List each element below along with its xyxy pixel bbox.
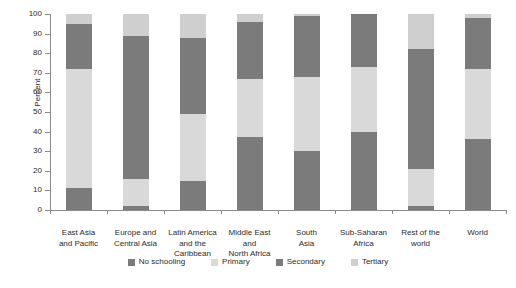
legend-item-secondary[interactable]: Secondary — [276, 258, 325, 266]
x-tick-mark — [278, 210, 279, 214]
legend-swatch-icon — [276, 259, 283, 266]
bar-segment-tertiary[interactable] — [294, 14, 320, 16]
y-tick-label: 60 — [18, 88, 42, 96]
x-label-line: World — [446, 228, 509, 239]
x-label-line: East Asia — [47, 228, 110, 239]
bar-segment-no-schooling[interactable] — [66, 188, 92, 210]
y-tick-mark — [45, 112, 50, 113]
chart-legend: No schoolingPrimarySecondaryTertiary — [0, 258, 516, 266]
x-label-line: Sub-Saharan — [332, 228, 395, 239]
legend-swatch-icon — [211, 259, 218, 266]
bar-group[interactable] — [294, 14, 320, 210]
x-label-line: and Pacific — [47, 239, 110, 250]
bar-segment-secondary[interactable] — [294, 16, 320, 77]
x-label-line: Latin America — [161, 228, 224, 239]
bar-group[interactable] — [408, 14, 434, 210]
bar-segment-tertiary[interactable] — [123, 14, 149, 36]
bar-segment-tertiary[interactable] — [180, 14, 206, 38]
legend-label: Secondary — [287, 258, 325, 266]
legend-item-tertiary[interactable]: Tertiary — [351, 258, 388, 266]
bar-group[interactable] — [123, 14, 149, 210]
legend-label: No schooling — [139, 258, 185, 266]
bar-stack — [66, 14, 92, 210]
x-axis-category-label: Sub-SaharanAfrica — [332, 228, 395, 249]
y-tick-label: 80 — [18, 49, 42, 57]
bar-segment-no-schooling[interactable] — [294, 151, 320, 210]
bar-stack — [180, 14, 206, 210]
x-tick-mark — [50, 210, 51, 214]
bar-group[interactable] — [351, 14, 377, 210]
y-tick-label: 100 — [18, 10, 42, 18]
y-tick-label: 40 — [18, 128, 42, 136]
bar-segment-primary[interactable] — [237, 79, 263, 138]
bar-segment-primary[interactable] — [294, 77, 320, 151]
bar-segment-primary[interactable] — [351, 67, 377, 132]
stacked-bar-chart: Percent 0102030405060708090100 East Asia… — [0, 0, 516, 288]
bar-segment-secondary[interactable] — [351, 14, 377, 67]
x-tick-mark — [164, 210, 165, 214]
x-tick-mark — [449, 210, 450, 214]
x-label-line: and — [218, 239, 281, 250]
bar-segment-secondary[interactable] — [180, 38, 206, 114]
y-tick-mark — [45, 151, 50, 152]
y-tick-label: 10 — [18, 186, 42, 194]
x-axis-category-label: Middle EastandNorth Africa — [218, 228, 281, 260]
bar-group[interactable] — [465, 14, 491, 210]
bar-segment-tertiary[interactable] — [66, 14, 92, 24]
x-axis-category-label: East Asiaand Pacific — [47, 228, 110, 249]
legend-item-no-schooling[interactable]: No schooling — [128, 258, 185, 266]
y-tick-mark — [45, 132, 50, 133]
bar-segment-secondary[interactable] — [465, 18, 491, 69]
bar-group[interactable] — [180, 14, 206, 210]
bar-segment-no-schooling[interactable] — [351, 132, 377, 210]
legend-swatch-icon — [351, 259, 358, 266]
bar-segment-no-schooling[interactable] — [237, 137, 263, 210]
y-tick-label: 50 — [18, 108, 42, 116]
x-label-line: Europe and — [104, 228, 167, 239]
y-tick-label: 20 — [18, 167, 42, 175]
y-tick-label: 0 — [18, 206, 42, 214]
bar-segment-no-schooling[interactable] — [180, 181, 206, 210]
bar-segment-no-schooling[interactable] — [123, 206, 149, 210]
bar-stack — [465, 14, 491, 210]
y-tick-label: 90 — [18, 30, 42, 38]
legend-label: Primary — [222, 258, 250, 266]
bar-segment-tertiary[interactable] — [237, 14, 263, 22]
y-tick-label: 70 — [18, 69, 42, 77]
y-tick-mark — [45, 190, 50, 191]
bar-group[interactable] — [66, 14, 92, 210]
bar-segment-no-schooling[interactable] — [465, 139, 491, 210]
x-tick-mark — [335, 210, 336, 214]
bar-segment-secondary[interactable] — [408, 49, 434, 169]
bar-segment-primary[interactable] — [66, 69, 92, 189]
legend-label: Tertiary — [362, 258, 388, 266]
bar-segment-secondary[interactable] — [66, 24, 92, 69]
y-tick-mark — [45, 92, 50, 93]
bar-segment-primary[interactable] — [180, 114, 206, 181]
x-label-line: Africa — [332, 239, 395, 250]
y-tick-mark — [45, 34, 50, 35]
bar-segment-primary[interactable] — [123, 179, 149, 206]
x-tick-mark — [221, 210, 222, 214]
x-label-line: and the — [161, 239, 224, 250]
bar-segment-no-schooling[interactable] — [408, 206, 434, 210]
legend-item-primary[interactable]: Primary — [211, 258, 250, 266]
x-label-line: Asia — [275, 239, 338, 250]
bar-segment-tertiary[interactable] — [465, 14, 491, 18]
x-label-line: world — [389, 239, 452, 250]
bar-segment-primary[interactable] — [465, 69, 491, 140]
bar-segment-secondary[interactable] — [237, 22, 263, 79]
x-label-line: Rest of the — [389, 228, 452, 239]
plot-area: 0102030405060708090100 East Asiaand Paci… — [50, 14, 506, 210]
bar-segment-primary[interactable] — [408, 169, 434, 206]
bar-group[interactable] — [237, 14, 263, 210]
y-tick-mark — [45, 73, 50, 74]
bar-segment-tertiary[interactable] — [408, 14, 434, 49]
y-axis-line — [50, 14, 51, 210]
bar-stack — [351, 14, 377, 210]
x-axis-category-label: Rest of theworld — [389, 228, 452, 249]
bar-segment-secondary[interactable] — [123, 36, 149, 179]
x-label-line: Central Asia — [104, 239, 167, 250]
bar-stack — [408, 14, 434, 210]
y-tick-mark — [45, 53, 50, 54]
